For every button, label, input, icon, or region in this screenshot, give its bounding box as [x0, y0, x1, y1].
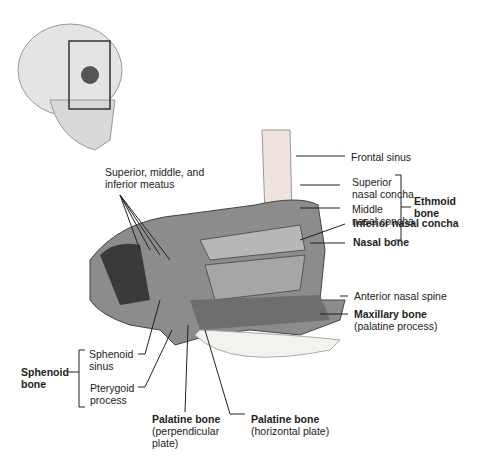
label-superior-concha: Superiornasal concha — [352, 176, 414, 200]
label-maxillary-bone: Maxillary bone(palatine process) — [354, 308, 437, 332]
label-inferior-concha: Inferior nasal concha — [353, 217, 459, 229]
label-palatine-perpendicular: Palatine bone(perpendicularplate) — [152, 413, 220, 449]
label-frontal-sinus: Frontal sinus — [351, 151, 411, 163]
label-anterior-nasal-spine: Anterior nasal spine — [354, 290, 447, 302]
label-sphenoid-bone: Sphenoidbone — [21, 366, 69, 390]
label-meatus: Superior, middle, andinferior meatus — [105, 166, 204, 190]
label-pterygoid-process: Pterygoidprocess — [90, 382, 134, 406]
label-sphenoid-sinus: Sphenoidsinus — [89, 348, 133, 372]
label-palatine-horizontal: Palatine bone(horizontal plate) — [251, 413, 329, 437]
skull-inset — [18, 24, 122, 150]
label-nasal-bone: Nasal bone — [353, 236, 409, 248]
label-ethmoid-bone: Ethmoidbone — [414, 195, 456, 219]
